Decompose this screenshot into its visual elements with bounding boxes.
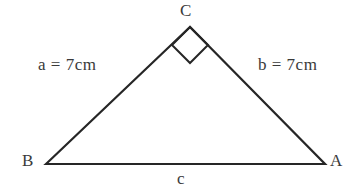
vertex-label-a: A: [330, 152, 342, 169]
triangle-drawing: [0, 0, 348, 194]
side-label-a: a = 7cm: [38, 56, 96, 73]
triangle-figure: C B A a = 7cm b = 7cm c: [0, 0, 348, 194]
vertex-label-b: B: [22, 152, 33, 169]
side-label-b: b = 7cm: [258, 56, 317, 73]
vertex-label-c: C: [180, 2, 191, 19]
side-label-c: c: [177, 170, 185, 187]
